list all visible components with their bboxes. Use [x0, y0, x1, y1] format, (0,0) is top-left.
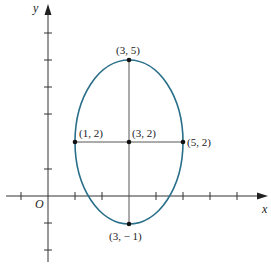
y-axis-label: y [32, 1, 39, 15]
point-right [181, 140, 186, 145]
point-top [127, 58, 132, 63]
ellipse-diagram: y x O (3, 5) (3, 2) (1, 2) (5, 2) (3, − … [0, 0, 271, 267]
x-axis-label: x [261, 202, 268, 216]
label-center: (3, 2) [132, 127, 156, 140]
label-bottom: (3, − 1) [109, 230, 142, 243]
label-right: (5, 2) [187, 136, 211, 149]
label-top: (3, 5) [116, 44, 140, 57]
x-axis [6, 192, 268, 200]
y-axis [44, 4, 52, 262]
point-bottom [127, 222, 132, 227]
point-center [127, 140, 132, 145]
origin-label: O [35, 197, 44, 211]
point-left [73, 140, 78, 145]
label-left: (1, 2) [79, 127, 103, 140]
